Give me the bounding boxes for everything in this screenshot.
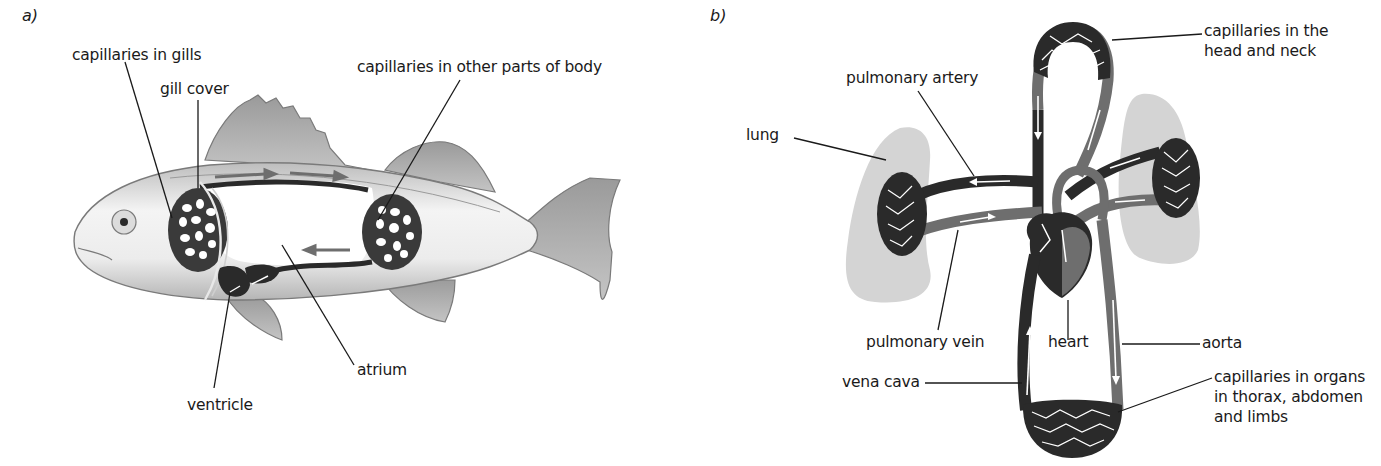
- pelvic-fin: [225, 295, 282, 340]
- label-capillaries-organs-line2: in thorax, abdomen: [1214, 388, 1363, 407]
- label-capillaries-organs-line1: capillaries in organs: [1214, 368, 1365, 387]
- label-vena-cava: vena cava: [842, 373, 920, 392]
- body-capillaries: [362, 194, 422, 270]
- mammal-heart: [1027, 212, 1092, 298]
- label-capillaries-head-line1: capillaries in the: [1204, 22, 1328, 41]
- panel-b-mammal-circulation: b): [690, 0, 1381, 466]
- left-lung-capillaries: [877, 172, 927, 256]
- label-capillaries-organs-line3: and limbs: [1214, 408, 1288, 427]
- organ-capillaries: [1023, 400, 1122, 458]
- label-lung: lung: [746, 126, 779, 145]
- head-neck-capillaries: [1033, 22, 1110, 80]
- label-gill-cover: gill cover: [160, 80, 229, 99]
- label-ventricle: ventricle: [187, 396, 253, 415]
- label-capillaries-in-gills: capillaries in gills: [72, 46, 201, 65]
- label-capillaries-head-line2: head and neck: [1204, 42, 1316, 61]
- panel-a-fish-circulation: a): [0, 0, 690, 466]
- label-heart: heart: [1048, 333, 1088, 352]
- pulmonary-vein-left: [916, 212, 1042, 232]
- label-pulmonary-artery: pulmonary artery: [846, 69, 978, 88]
- label-pulmonary-vein: pulmonary vein: [866, 333, 984, 352]
- label-aorta: aorta: [1202, 334, 1242, 353]
- label-capillaries-other-body: capillaries in other parts of body: [357, 58, 602, 77]
- dorsal-fin: [205, 95, 380, 172]
- right-lung-capillaries: [1152, 138, 1200, 218]
- fish-eye: [112, 210, 136, 234]
- label-atrium: atrium: [357, 361, 407, 380]
